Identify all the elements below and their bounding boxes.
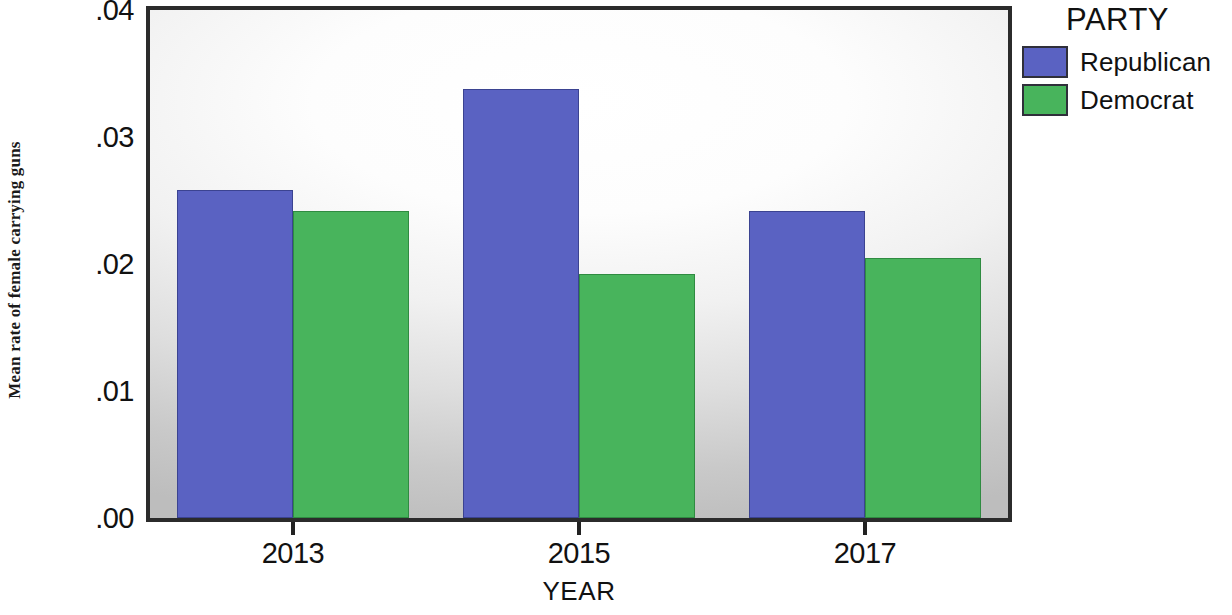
y-axis-ticks: .04.03.02.01.00 xyxy=(42,0,134,615)
bar-chart: Mean rate of female carrying guns .04.03… xyxy=(0,0,1232,615)
x-tick-label-2013: 2013 xyxy=(213,537,373,570)
bar-2013-democrat[interactable] xyxy=(293,211,409,518)
y-tick-label: .02 xyxy=(60,248,134,281)
x-tick-label-2017: 2017 xyxy=(785,537,945,570)
bar-2013-republican[interactable] xyxy=(177,190,293,518)
y-tick-label: .04 xyxy=(60,0,134,27)
legend-swatch-democrat-icon xyxy=(1022,84,1068,116)
y-axis-title: Mean rate of female carrying guns xyxy=(0,0,30,540)
bar-2015-democrat[interactable] xyxy=(579,274,695,518)
y-tick-label: .01 xyxy=(60,375,134,408)
plot-area xyxy=(146,6,1012,522)
legend: PARTY Republican Democrat xyxy=(1022,2,1232,122)
y-tick-label: .03 xyxy=(60,121,134,154)
legend-label-democrat: Democrat xyxy=(1080,85,1194,116)
legend-item-republican[interactable]: Republican xyxy=(1022,46,1232,78)
x-tick-mark xyxy=(291,522,295,535)
x-tick-mark xyxy=(863,522,867,535)
bar-2017-republican[interactable] xyxy=(749,211,865,518)
x-tick-mark xyxy=(577,522,581,535)
x-axis-title: YEAR xyxy=(146,576,1012,607)
y-tick-label: .00 xyxy=(60,502,134,535)
bar-2015-republican[interactable] xyxy=(463,89,579,518)
x-tick-label-2015: 2015 xyxy=(499,537,659,570)
bars-container xyxy=(150,10,1008,518)
legend-title: PARTY xyxy=(1066,2,1232,38)
legend-swatch-republican-icon xyxy=(1022,46,1068,78)
bar-2017-democrat[interactable] xyxy=(865,258,981,518)
legend-label-republican: Republican xyxy=(1080,47,1211,78)
legend-item-democrat[interactable]: Democrat xyxy=(1022,84,1232,116)
